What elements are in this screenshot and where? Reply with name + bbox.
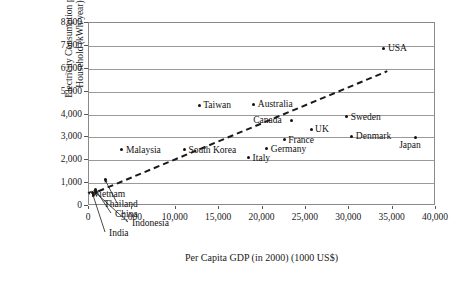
data-point [310,128,313,131]
data-point [414,136,417,139]
x-axis-title: Per Capita GDP (in 2000) (1000 US$) [88,252,435,263]
data-point [283,138,286,141]
point-label: Malaysia [126,145,161,155]
point-label: Italy [253,153,270,163]
point-label: Canada [253,115,282,125]
data-point [252,103,255,106]
x-tick-mark [175,206,176,209]
point-label: USA [388,43,407,53]
point-label: Japan [399,140,421,150]
y-tick-label: 1,000 [36,177,82,187]
x-tick-label: 40,000 [405,212,463,222]
y-tick-label: 6,000 [36,63,82,73]
y-tick-label: 5,000 [36,86,82,96]
data-point [247,156,250,159]
y-tick-label: 0 [36,200,82,210]
y-tick-label: 7,000 [36,40,82,50]
point-label: Germany [271,144,306,154]
x-tick-mark [131,206,132,209]
point-label: South Korea [188,145,236,155]
point-label-callout: India [109,228,129,238]
y-tick-label: 3,000 [36,131,82,141]
point-label-callout: Thailand [104,199,138,209]
point-label-callout: Vietnam [93,189,125,199]
y-tick-label: 2,000 [36,154,82,164]
gridline [89,183,434,184]
y-tick-label: 8,000 [36,17,82,27]
x-tick-mark [348,206,349,209]
x-tick-mark [218,206,219,209]
point-label: Australia [258,99,293,109]
point-label: Taiwan [203,100,231,110]
x-tick-mark [392,206,393,209]
point-label: Denmark [356,131,391,141]
data-point [198,104,201,107]
data-point [382,47,385,50]
y-tick-label: 4,000 [36,109,82,119]
data-point [345,115,348,118]
data-point [104,178,107,181]
x-tick-mark [88,206,89,209]
gridline [89,69,434,70]
x-tick-mark [435,206,436,209]
point-label: Sweden [351,112,381,122]
data-point [290,119,293,122]
data-point [120,148,123,151]
gridline [89,92,434,93]
data-point [183,148,186,151]
x-tick-mark [305,206,306,209]
point-label: UK [315,124,329,134]
scatter-chart-figure: Electricity Consumption per Household (k… [0,0,463,283]
x-tick-mark [262,206,263,209]
plot-area: USATaiwanAustraliaCanadaSwedenUKDenmarkJ… [88,22,435,205]
data-point [265,147,268,150]
